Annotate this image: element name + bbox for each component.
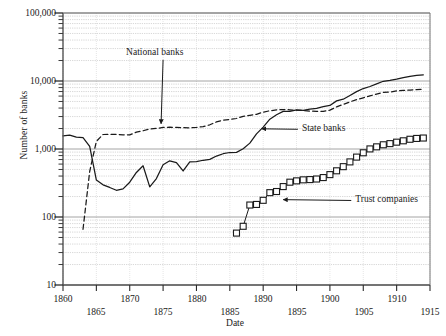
y-tick-label-100000: 100,000: [0, 8, 56, 18]
x-tick-label-1875: 1875: [143, 307, 183, 317]
x-tick-label-1885: 1885: [210, 307, 250, 317]
x-tick-label-1870: 1870: [110, 294, 150, 304]
x-tick-label-1900: 1900: [310, 294, 350, 304]
annotation-trust-companies: Trust companies: [355, 194, 418, 204]
x-tick-label-1905: 1905: [344, 307, 384, 317]
x-tick-label-1915: 1915: [410, 307, 446, 317]
x-tick-label-1910: 1910: [377, 294, 417, 304]
annotation-national-banks: National banks: [126, 47, 183, 57]
y-tick-label-10: 10: [0, 280, 56, 290]
x-tick-label-1880: 1880: [177, 294, 217, 304]
plot-area: [0, 0, 446, 336]
x-axis-title: Date: [205, 318, 265, 328]
y-tick-label-10000: 10,000: [0, 76, 56, 86]
y-axis-title: Number of banks: [19, 75, 29, 175]
chart-figure: Number of banks Date 100,000 10,000 1,00…: [0, 0, 446, 336]
series-state-banks: [63, 75, 423, 191]
x-tick-label-1890: 1890: [243, 294, 283, 304]
y-tick-label-1000: 1,000: [0, 144, 56, 154]
y-tick-label-100: 100: [0, 212, 56, 222]
x-tick-label-1860: 1860: [43, 294, 83, 304]
axes: [55, 13, 431, 291]
x-tick-label-1895: 1895: [277, 307, 317, 317]
annotation-state-banks: State banks: [302, 123, 346, 133]
x-tick-label-1865: 1865: [76, 307, 116, 317]
